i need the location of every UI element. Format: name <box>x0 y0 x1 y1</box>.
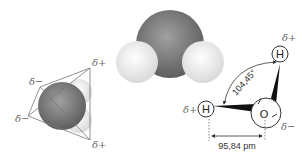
tetrahedral-view: δ+ δ− δ− δ+ <box>15 57 106 150</box>
charge-label-upper-left: δ− <box>29 76 43 87</box>
bond-angle-label: 104,45° <box>230 67 259 97</box>
atom-label-h-left: H <box>202 103 210 115</box>
charge-label-bottom-right: δ+ <box>92 139 106 150</box>
water-molecule-diagram: δ+ δ− δ− δ+ H H O 104,45° δ+ δ+ δ− 95,84 <box>0 0 302 159</box>
atom-label-o: O <box>260 108 269 120</box>
charge-o: δ− <box>281 121 295 132</box>
atom-label-h-top: H <box>276 48 284 60</box>
charge-h-left: δ+ <box>183 104 197 115</box>
bond-h-top-o <box>270 64 280 104</box>
space-filling-model <box>116 10 224 83</box>
bond-length-label: 95,84 pm <box>218 141 256 151</box>
charge-h-top: δ+ <box>282 32 296 43</box>
charge-label-top-right: δ+ <box>92 57 106 68</box>
hydrogen-sphere-right <box>182 41 224 83</box>
charge-label-lower-left: δ− <box>15 113 29 124</box>
bond-h-left-o <box>213 104 256 112</box>
hydrogen-sphere-left <box>116 41 158 83</box>
